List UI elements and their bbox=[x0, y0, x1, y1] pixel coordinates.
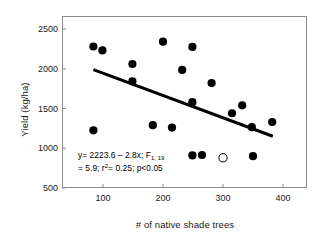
data-point bbox=[98, 46, 106, 54]
plot-graphics-layer bbox=[0, 0, 330, 240]
data-point bbox=[128, 77, 136, 85]
data-point bbox=[249, 152, 257, 160]
data-point bbox=[228, 109, 236, 117]
regression-fit-line bbox=[93, 70, 272, 137]
axis-ticks bbox=[62, 29, 283, 188]
data-point bbox=[178, 66, 186, 74]
data-point bbox=[219, 154, 227, 162]
data-point bbox=[238, 101, 246, 109]
data-point bbox=[208, 79, 216, 87]
data-point bbox=[188, 151, 196, 159]
data-point bbox=[149, 121, 157, 129]
data-point bbox=[248, 123, 256, 131]
scatter-plot-figure: 2500 2000 1500 1000 500 100 200 300 400 … bbox=[0, 0, 330, 240]
data-points-group bbox=[89, 38, 276, 162]
data-point bbox=[268, 118, 276, 126]
fit-line bbox=[93, 70, 272, 137]
data-point bbox=[198, 151, 206, 159]
data-point bbox=[188, 98, 196, 106]
data-point bbox=[168, 123, 176, 131]
data-point bbox=[159, 38, 167, 46]
data-point bbox=[188, 43, 196, 51]
data-point bbox=[128, 60, 136, 68]
data-point bbox=[89, 42, 97, 50]
data-point bbox=[89, 126, 97, 134]
